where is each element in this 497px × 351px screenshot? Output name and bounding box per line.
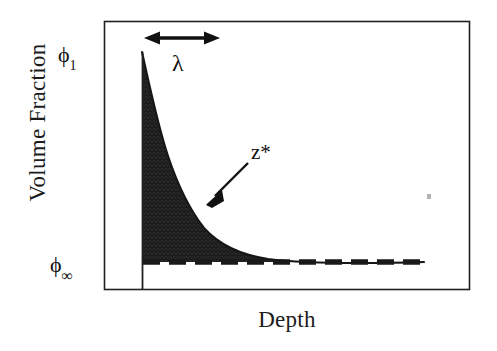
lambda-annotation-label: λ (172, 50, 184, 77)
y-tick-label-phi-infinity: ϕ∞ (50, 252, 73, 278)
zstar-annotation-label: z* (251, 140, 271, 165)
phi-symbol: ϕ (50, 252, 62, 277)
x-axis-title: Depth (104, 305, 470, 335)
phi-one-subscript: 1 (70, 58, 77, 73)
figure-root: Volume Fraction Depth ϕ1 ϕ∞ λ z* (0, 0, 497, 351)
phi-symbol: ϕ (58, 42, 70, 67)
phi-infinity-subscript: ∞ (62, 267, 73, 284)
scan-artifact-speck (427, 194, 431, 199)
y-tick-label-phi-one: ϕ1 (58, 42, 77, 68)
